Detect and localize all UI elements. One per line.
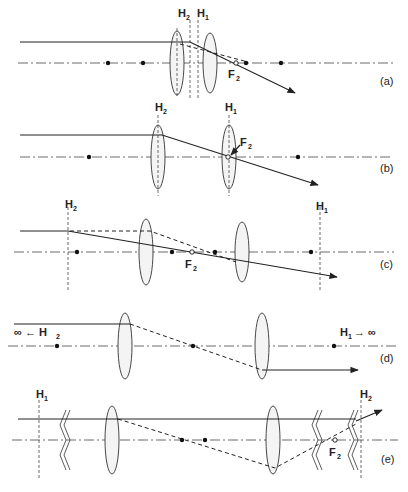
incident-ray: [20, 42, 295, 93]
panel-caption: (e): [381, 453, 394, 465]
focal-point: [309, 250, 313, 254]
svg-text:2: 2: [163, 108, 167, 115]
lens-2: [203, 33, 217, 93]
svg-text:2: 2: [186, 14, 190, 21]
lens-1: [139, 219, 153, 285]
label-h2: H: [65, 198, 73, 210]
lens-2: [235, 222, 249, 282]
focal-point-f2: [190, 250, 194, 254]
focal-point: [75, 250, 79, 254]
panel-c: H 2 H 1 F 2 (c): [14, 198, 394, 290]
label-h2-infinity: ∞ ← H: [14, 326, 47, 338]
svg-text:2: 2: [56, 333, 60, 340]
focal-point: [332, 344, 336, 348]
svg-text:1: 1: [233, 108, 237, 115]
focal-point: [180, 438, 184, 442]
label-h1: H: [340, 326, 348, 338]
label-f2: F: [185, 258, 192, 270]
label-h1: H: [225, 101, 233, 113]
focal-point: [213, 250, 217, 254]
panel-caption: (a): [380, 75, 393, 87]
incident-ray: [20, 231, 337, 277]
emergent-ray: [356, 410, 382, 421]
panel-caption: (c): [380, 258, 393, 270]
panel-caption: (b): [380, 162, 393, 174]
focal-point: [296, 155, 300, 159]
svg-text:1: 1: [205, 14, 209, 21]
svg-text:2: 2: [193, 265, 197, 272]
focal-point: [106, 61, 110, 65]
incident-ray: [20, 135, 318, 185]
lens-2: [255, 313, 269, 379]
svg-text:2: 2: [248, 143, 252, 150]
svg-text:2: 2: [73, 205, 77, 212]
focal-point-f2: [234, 61, 238, 65]
label-h1: H: [197, 7, 205, 19]
label-f2: F: [240, 136, 247, 148]
svg-text:1: 1: [324, 207, 328, 214]
focal-point: [141, 61, 145, 65]
label-h1: H: [36, 388, 44, 400]
focal-point: [87, 155, 91, 159]
lens-1: [118, 313, 132, 379]
svg-text:2: 2: [236, 75, 240, 82]
label-h1: H: [316, 200, 324, 212]
svg-text:1: 1: [44, 395, 48, 402]
focal-point: [244, 61, 248, 65]
focal-point-f2: [226, 155, 230, 159]
focal-point: [203, 438, 207, 442]
label-h2: H: [360, 388, 368, 400]
focal-point: [191, 344, 195, 348]
label-h2: H: [178, 7, 186, 19]
focal-point-f2: [333, 438, 337, 442]
panel-caption: (d): [380, 352, 393, 364]
internal-ray: [130, 324, 262, 370]
panel-a: H 2 H 1 F 2 (a): [18, 7, 395, 100]
label-h2: H: [155, 101, 163, 113]
svg-text:2: 2: [337, 453, 341, 460]
label-f2: F: [228, 68, 235, 80]
panel-b: H 2 H 1 F 2 (b): [20, 101, 393, 196]
focal-point: [279, 61, 283, 65]
lens-2: [266, 406, 280, 474]
panel-d: ∞ ← H 2 H 1 → ∞ (d): [8, 313, 396, 379]
label-h1-infinity: → ∞: [354, 326, 376, 338]
focal-point: [55, 344, 59, 348]
two-lens-principal-planes-diagram: H 2 H 1 F 2 (a) H 2 H 1 F 2 (b): [0, 0, 408, 492]
lens-1: [105, 406, 119, 474]
svg-text:1: 1: [348, 333, 352, 340]
label-f2: F: [329, 446, 336, 458]
panel-e: H 1 H 2 F 2 (e): [12, 388, 398, 478]
svg-text:2: 2: [368, 395, 372, 402]
focal-point: [170, 250, 174, 254]
